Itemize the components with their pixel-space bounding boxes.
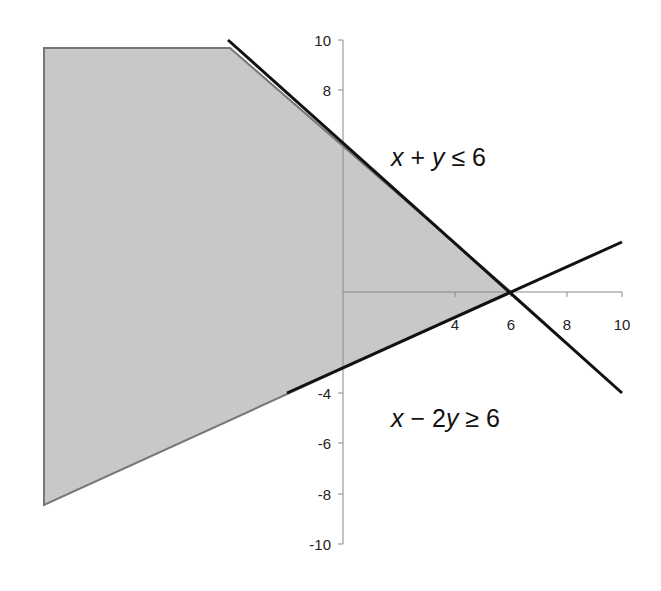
inequality-label-2: x − 2y ≥ 6: [390, 404, 500, 432]
linear-inequality-chart: 10 8 -4 -6 -8 -10 4 6 8 10 x + y ≤ 6 x −…: [0, 0, 661, 591]
x-tick-label: 10: [614, 316, 631, 333]
y-tick-label: -8: [318, 486, 331, 503]
y-tick-label: 8: [323, 82, 331, 99]
x-tick-label: 6: [507, 316, 515, 333]
y-tick-label: -4: [318, 385, 331, 402]
y-tick-label: -10: [309, 536, 331, 553]
y-tick-label: 10: [314, 32, 331, 49]
feasible-region: [44, 48, 511, 505]
y-tick-label: -6: [318, 435, 331, 452]
inequality-label-1: x + y ≤ 6: [390, 143, 486, 171]
x-tick-label: 8: [563, 316, 571, 333]
